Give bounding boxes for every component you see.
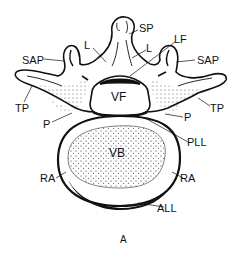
label-vertebral-foramen: VF bbox=[111, 92, 126, 103]
label-lamina-right: L bbox=[146, 43, 152, 54]
label-transverse-process-right: TP bbox=[210, 103, 224, 114]
vertebral-body bbox=[58, 116, 180, 210]
label-anterior-longitudinal-ligament: ALL bbox=[157, 203, 177, 214]
label-ring-apophysis-right: RA bbox=[180, 173, 195, 184]
label-posterior-longitudinal-ligament: PLL bbox=[187, 137, 207, 148]
label-vertebral-body: VB bbox=[109, 148, 125, 159]
label-ring-apophysis-left: RA bbox=[40, 173, 55, 184]
label-spinous-process: SP bbox=[139, 23, 154, 34]
label-ligamentum-flavum: LF bbox=[174, 34, 187, 45]
label-superior-articular-process-right: SAP bbox=[197, 55, 219, 66]
panel-label: A bbox=[120, 234, 127, 245]
label-superior-articular-process-left: SAP bbox=[22, 55, 44, 66]
label-pedicle-left: P bbox=[43, 119, 50, 130]
label-transverse-process-left: TP bbox=[15, 103, 29, 114]
vertebra-drawing bbox=[0, 0, 239, 257]
label-pedicle-right: P bbox=[184, 112, 191, 123]
label-lamina-left: L bbox=[84, 40, 90, 51]
